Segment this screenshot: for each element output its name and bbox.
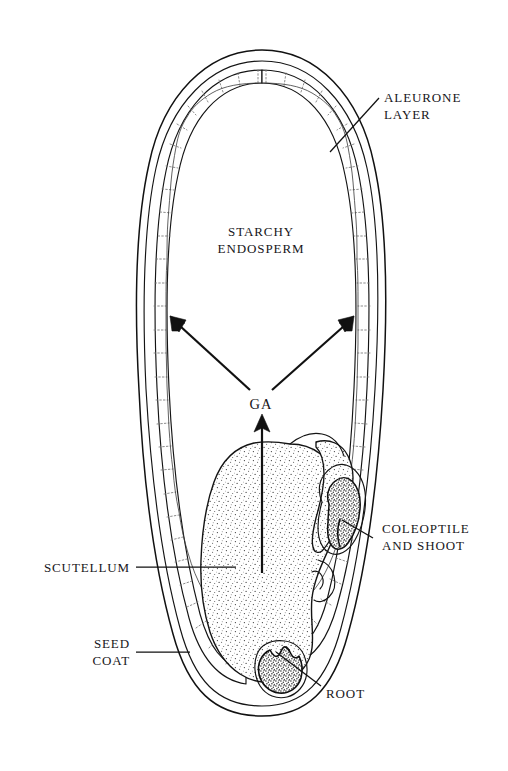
label-endosperm-line1: STARCHY [228, 224, 294, 239]
cereal-grain-diagram: ALEURONE LAYER STARCHY ENDOSPERM GA COLE… [0, 0, 508, 771]
label-aleurone-line1: ALEURONE [384, 90, 461, 105]
label-ga: GA [249, 396, 272, 412]
label-coleoptile-line2: AND SHOOT [382, 538, 465, 553]
diagram-canvas: ALEURONE LAYER STARCHY ENDOSPERM GA COLE… [0, 0, 508, 771]
label-coleoptile-line1: COLEOPTILE [382, 521, 470, 536]
label-aleurone-line2: LAYER [384, 107, 431, 122]
label-scutellum-text: SCUTELLUM [44, 560, 130, 575]
label-starchy-endosperm: STARCHY ENDOSPERM [218, 224, 305, 256]
arrow-ga-to-left-aleurone [170, 316, 250, 390]
label-seed-coat-line1: SEED [94, 636, 130, 651]
label-seed-coat-line2: COAT [92, 653, 130, 668]
label-seed-coat: SEED COAT [92, 636, 130, 668]
arrow-ga-to-right-aleurone [272, 316, 354, 390]
label-coleoptile-and-shoot: COLEOPTILE AND SHOOT [382, 521, 470, 553]
label-root: ROOT [326, 686, 365, 701]
label-aleurone-layer: ALEURONE LAYER [384, 90, 461, 122]
label-root-text: ROOT [326, 686, 365, 701]
label-ga-text: GA [249, 396, 272, 412]
label-endosperm-line2: ENDOSPERM [218, 241, 305, 256]
label-scutellum: SCUTELLUM [44, 560, 130, 575]
